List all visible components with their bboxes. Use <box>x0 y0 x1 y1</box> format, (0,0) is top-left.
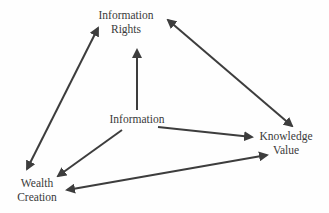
node-knowledge-value: Knowledge Value <box>259 130 312 157</box>
arrow-wealth-knowledge <box>67 155 267 190</box>
arrow-wealth-rights <box>27 28 98 169</box>
diagram-canvas: Information Rights Information Knowledge… <box>0 0 329 213</box>
node-label-line1: Information <box>99 9 154 23</box>
node-label-line1: Wealth <box>17 177 57 191</box>
node-label-line2: Value <box>259 144 312 158</box>
node-label-line1: Knowledge <box>259 130 312 144</box>
node-wealth-creation: Wealth Creation <box>17 177 57 204</box>
node-label-line1: Information <box>110 113 165 127</box>
arrow-info-knowledge <box>158 127 252 137</box>
arrow-rights-knowledge <box>168 20 292 126</box>
node-information-rights: Information Rights <box>99 9 154 36</box>
node-information: Information <box>110 113 165 127</box>
node-label-line2: Creation <box>17 191 57 205</box>
arrow-info-wealth <box>58 130 122 176</box>
node-label-line2: Rights <box>99 23 154 37</box>
